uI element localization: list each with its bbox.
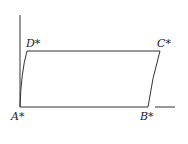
label-a: A* bbox=[11, 111, 24, 122]
label-d: D* bbox=[26, 38, 40, 49]
edge-b-c-curved bbox=[148, 51, 160, 107]
edge-a-d-curved bbox=[20, 51, 27, 107]
label-c: C* bbox=[157, 38, 171, 49]
label-b: B* bbox=[140, 111, 154, 122]
deformed-quadrilateral-diagram bbox=[0, 0, 188, 144]
